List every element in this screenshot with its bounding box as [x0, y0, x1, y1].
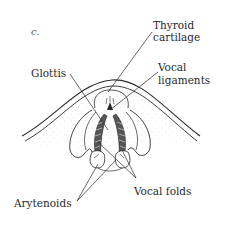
label-arytenoids: Arytenoids — [14, 198, 72, 210]
label-thyroid-line1: Thyroid — [153, 20, 194, 32]
label-vocal-ligaments-line2: ligaments — [158, 75, 210, 87]
label-vocal-folds: Vocal folds — [134, 186, 191, 198]
label-thyroid-line2: cartilage — [153, 32, 200, 44]
label-vocal-ligaments-line1: Vocal — [158, 62, 186, 74]
panel-label: c. — [31, 26, 40, 38]
label-glottis: Glottis — [31, 68, 66, 80]
